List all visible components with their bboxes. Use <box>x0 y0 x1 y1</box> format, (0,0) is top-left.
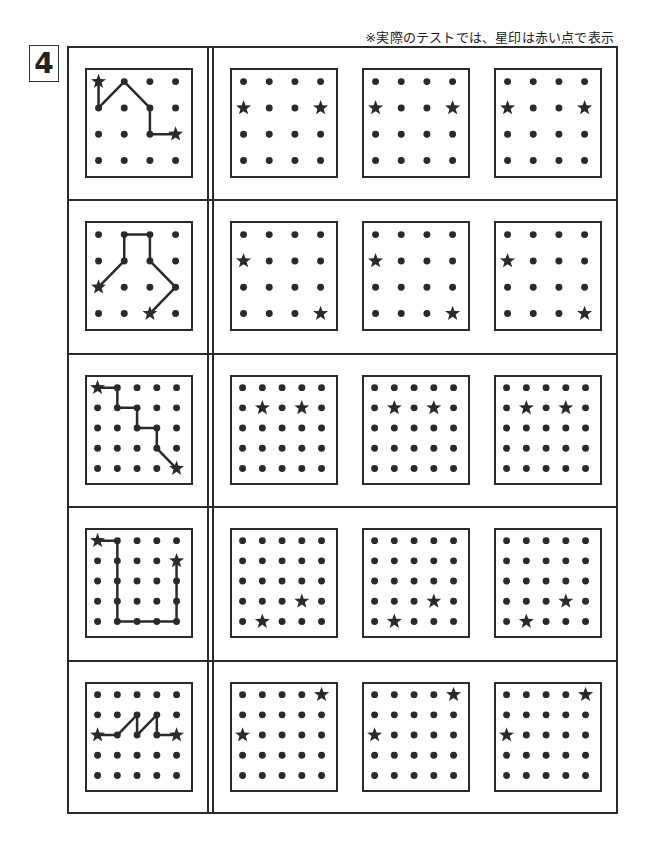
dot-icon[interactable] <box>523 752 530 759</box>
dot-icon[interactable] <box>582 732 589 739</box>
dot-icon[interactable] <box>450 445 457 452</box>
dot-icon[interactable] <box>398 231 405 238</box>
dot-icon[interactable] <box>430 425 437 432</box>
dot-icon[interactable] <box>298 425 305 432</box>
answer-grid[interactable] <box>362 221 470 331</box>
dot-icon[interactable] <box>582 772 589 779</box>
dot-icon[interactable] <box>291 131 298 138</box>
dot-icon[interactable] <box>391 691 398 698</box>
dot-icon[interactable] <box>239 752 246 759</box>
dot-icon[interactable] <box>398 131 405 138</box>
dot-icon[interactable] <box>318 772 325 779</box>
dot-icon[interactable] <box>503 618 510 625</box>
dot-icon[interactable] <box>318 557 325 564</box>
dot-icon[interactable] <box>372 131 379 138</box>
dot-icon[interactable] <box>523 691 530 698</box>
dot-icon[interactable] <box>411 752 418 759</box>
dot-icon[interactable] <box>582 578 589 585</box>
dot-icon[interactable] <box>582 465 589 472</box>
dot-icon[interactable] <box>449 257 456 264</box>
dot-icon[interactable] <box>530 104 537 111</box>
dot-icon[interactable] <box>317 231 324 238</box>
dot-icon[interactable] <box>259 445 266 452</box>
dot-icon[interactable] <box>581 231 588 238</box>
dot-icon[interactable] <box>543 557 550 564</box>
dot-icon[interactable] <box>430 772 437 779</box>
dot-icon[interactable] <box>372 78 379 85</box>
dot-icon[interactable] <box>239 537 246 544</box>
dot-icon[interactable] <box>371 618 378 625</box>
dot-icon[interactable] <box>562 425 569 432</box>
answer-grid[interactable] <box>494 68 602 178</box>
dot-icon[interactable] <box>266 104 273 111</box>
dot-icon[interactable] <box>423 231 430 238</box>
dot-icon[interactable] <box>503 752 510 759</box>
dot-icon[interactable] <box>503 465 510 472</box>
dot-icon[interactable] <box>450 404 457 411</box>
dot-icon[interactable] <box>318 598 325 605</box>
dot-icon[interactable] <box>423 257 430 264</box>
dot-icon[interactable] <box>562 578 569 585</box>
dot-icon[interactable] <box>266 157 273 164</box>
dot-icon[interactable] <box>523 557 530 564</box>
dot-icon[interactable] <box>259 598 266 605</box>
dot-icon[interactable] <box>523 445 530 452</box>
dot-icon[interactable] <box>562 752 569 759</box>
dot-icon[interactable] <box>582 557 589 564</box>
dot-icon[interactable] <box>279 465 286 472</box>
dot-icon[interactable] <box>581 257 588 264</box>
dot-icon[interactable] <box>555 310 562 317</box>
dot-icon[interactable] <box>318 404 325 411</box>
dot-icon[interactable] <box>398 104 405 111</box>
dot-icon[interactable] <box>562 384 569 391</box>
dot-icon[interactable] <box>279 578 286 585</box>
dot-icon[interactable] <box>259 537 266 544</box>
dot-icon[interactable] <box>398 257 405 264</box>
dot-icon[interactable] <box>523 711 530 718</box>
dot-icon[interactable] <box>543 578 550 585</box>
dot-icon[interactable] <box>371 578 378 585</box>
dot-icon[interactable] <box>240 284 247 291</box>
answer-grid[interactable] <box>494 375 602 485</box>
dot-icon[interactable] <box>503 578 510 585</box>
dot-icon[interactable] <box>555 131 562 138</box>
dot-icon[interactable] <box>450 537 457 544</box>
dot-icon[interactable] <box>279 445 286 452</box>
answer-grid[interactable] <box>494 221 602 331</box>
dot-icon[interactable] <box>523 772 530 779</box>
dot-icon[interactable] <box>372 310 379 317</box>
dot-icon[interactable] <box>391 384 398 391</box>
answer-grid[interactable] <box>230 682 338 792</box>
dot-icon[interactable] <box>279 598 286 605</box>
dot-icon[interactable] <box>317 284 324 291</box>
answer-grid[interactable] <box>230 528 338 638</box>
dot-icon[interactable] <box>430 578 437 585</box>
dot-icon[interactable] <box>450 465 457 472</box>
answer-grid[interactable] <box>230 375 338 485</box>
dot-icon[interactable] <box>503 711 510 718</box>
dot-icon[interactable] <box>411 598 418 605</box>
dot-icon[interactable] <box>279 772 286 779</box>
dot-icon[interactable] <box>391 578 398 585</box>
dot-icon[interactable] <box>449 78 456 85</box>
dot-icon[interactable] <box>503 445 510 452</box>
dot-icon[interactable] <box>391 537 398 544</box>
dot-icon[interactable] <box>318 752 325 759</box>
dot-icon[interactable] <box>430 618 437 625</box>
dot-icon[interactable] <box>543 691 550 698</box>
dot-icon[interactable] <box>317 157 324 164</box>
dot-icon[interactable] <box>298 445 305 452</box>
dot-icon[interactable] <box>450 425 457 432</box>
dot-icon[interactable] <box>298 578 305 585</box>
dot-icon[interactable] <box>543 445 550 452</box>
dot-icon[interactable] <box>371 465 378 472</box>
dot-icon[interactable] <box>391 425 398 432</box>
dot-icon[interactable] <box>239 557 246 564</box>
dot-icon[interactable] <box>318 445 325 452</box>
dot-icon[interactable] <box>530 231 537 238</box>
dot-icon[interactable] <box>239 691 246 698</box>
dot-icon[interactable] <box>259 732 266 739</box>
dot-icon[interactable] <box>318 732 325 739</box>
dot-icon[interactable] <box>239 404 246 411</box>
dot-icon[interactable] <box>371 425 378 432</box>
